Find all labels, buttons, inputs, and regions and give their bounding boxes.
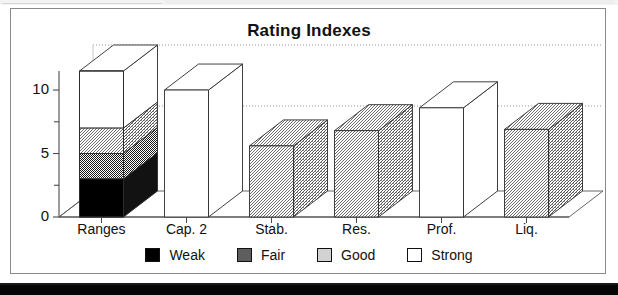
window-strip-right (165, 0, 615, 4)
legend-label: Weak (169, 247, 205, 263)
legend-swatch-weak (145, 248, 160, 262)
x-axis-category-label: Res. (312, 221, 402, 237)
window-bottom-band (0, 283, 618, 295)
chart-legend: WeakFairGoodStrong (11, 247, 607, 263)
screenshot-root: Rating Indexes (0, 0, 618, 295)
window-strip-left (2, 0, 162, 4)
x-axis-category-label: Cap. 2 (142, 221, 232, 237)
legend-item[interactable]: Good (317, 247, 375, 263)
window-top-strip (0, 0, 618, 5)
plot-area: 0510 RangesCap. 2Stab.Res.Prof.Liq. (11, 9, 607, 275)
legend-label: Good (341, 247, 375, 263)
x-axis-category-label: Liq. (482, 221, 572, 237)
y-axis-tick-label: 10 (23, 80, 49, 97)
x-axis-category-label: Stab. (227, 221, 317, 237)
legend-item[interactable]: Strong (407, 247, 472, 263)
legend-swatch-good (317, 248, 332, 262)
chart-frame: Rating Indexes (10, 8, 606, 274)
legend-item[interactable]: Weak (145, 247, 205, 263)
y-axis-tick-label: 0 (23, 207, 49, 224)
x-axis-category-label: Prof. (397, 221, 487, 237)
legend-swatch-strong (407, 248, 422, 262)
legend-label: Strong (431, 247, 472, 263)
bottom-band-highlight (0, 283, 618, 285)
x-axis-category-label: Ranges (57, 221, 147, 237)
legend-item[interactable]: Fair (237, 247, 285, 263)
legend-label: Fair (261, 247, 285, 263)
y-axis-tick-label: 5 (23, 144, 49, 161)
legend-swatch-fair (237, 248, 252, 262)
